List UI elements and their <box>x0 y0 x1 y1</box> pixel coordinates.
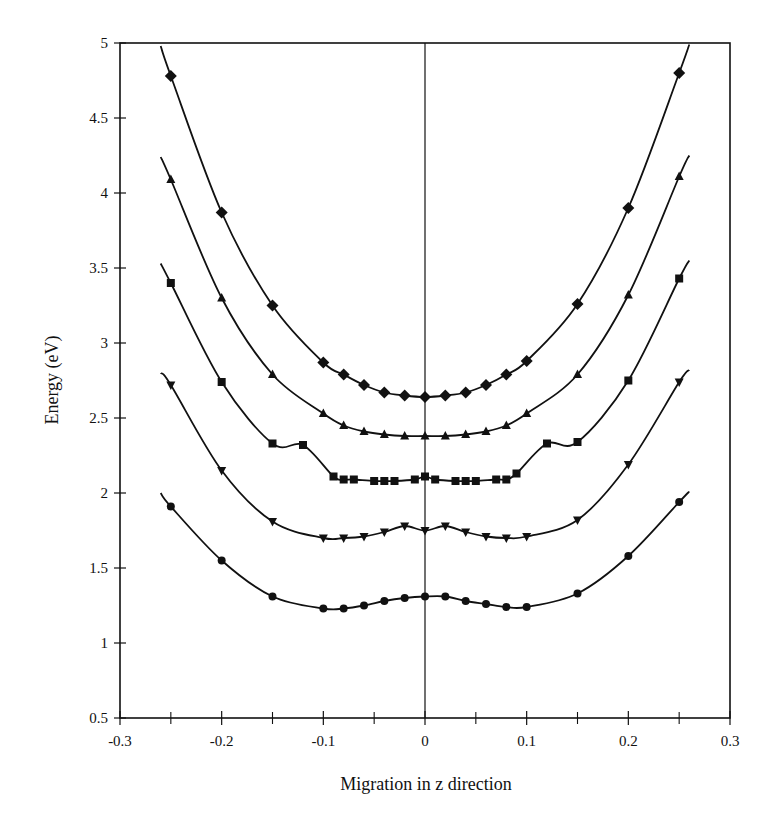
x-tick-label: -0.3 <box>108 733 132 749</box>
triangle-up-marker <box>522 409 531 418</box>
diamond-marker <box>460 387 472 399</box>
square-marker <box>218 378 226 386</box>
square-marker <box>431 476 439 484</box>
square-marker <box>492 476 500 484</box>
circle-marker <box>421 593 429 601</box>
diamond-marker <box>358 379 370 391</box>
y-tick-label: 4.5 <box>89 110 108 126</box>
square-marker <box>472 477 480 485</box>
square-marker <box>299 441 307 449</box>
diamond-marker <box>673 67 685 79</box>
square-marker <box>370 477 378 485</box>
diamond-marker <box>480 379 492 391</box>
square-marker <box>421 473 429 481</box>
circle-marker <box>462 597 470 605</box>
y-tick-label: 1 <box>101 635 109 651</box>
circle-marker <box>574 590 582 598</box>
x-tick-label: 0 <box>421 733 429 749</box>
y-tick-label: 1.5 <box>89 560 108 576</box>
square-marker <box>675 275 683 283</box>
triangle-up-marker <box>319 409 328 418</box>
circle-marker <box>502 603 510 611</box>
x-axis-ticks: -0.3-0.2-0.100.10.20.3 <box>108 711 739 749</box>
circle-marker <box>269 593 277 601</box>
square-marker <box>574 438 582 446</box>
square-marker <box>391 477 399 485</box>
square-marker <box>330 473 338 481</box>
circle-marker <box>482 600 490 608</box>
square-marker <box>502 476 510 484</box>
circle-marker <box>624 552 632 560</box>
square-marker <box>340 476 348 484</box>
energy-migration-chart: 0.511.522.533.544.55 -0.3-0.2-0.100.10.2… <box>0 0 774 839</box>
y-tick-label: 2 <box>101 485 109 501</box>
y-tick-label: 5 <box>101 35 109 51</box>
circle-marker <box>319 605 327 613</box>
diamond-marker <box>500 369 512 381</box>
diamond-marker <box>399 390 411 402</box>
x-tick-label: -0.2 <box>210 733 234 749</box>
diamond-marker <box>419 391 431 403</box>
square-marker <box>543 440 551 448</box>
y-tick-label: 0.5 <box>89 710 108 726</box>
square-marker <box>624 377 632 385</box>
square-marker <box>462 477 470 485</box>
square-marker <box>269 440 277 448</box>
diamond-marker <box>216 207 228 219</box>
x-tick-label: -0.1 <box>311 733 335 749</box>
circle-marker <box>380 597 388 605</box>
triangle-up-marker <box>675 172 684 181</box>
square-marker <box>411 476 419 484</box>
square-marker <box>380 477 388 485</box>
x-tick-label: 0.1 <box>517 733 536 749</box>
square-marker <box>513 470 521 478</box>
triangle-up-marker <box>624 290 633 299</box>
diamond-marker <box>338 369 350 381</box>
triangle-up-marker <box>166 175 175 184</box>
y-tick-label: 4 <box>101 185 109 201</box>
y-tick-label: 3.5 <box>89 260 108 276</box>
circle-marker <box>675 498 683 506</box>
square-marker <box>350 476 358 484</box>
square-marker <box>452 477 460 485</box>
diamond-marker <box>267 300 279 312</box>
diamond-marker <box>378 387 390 399</box>
triangle-up-marker <box>217 293 226 302</box>
diamond-marker <box>572 298 584 310</box>
circle-marker <box>340 605 348 613</box>
y-axis-title: Energy (eV) <box>42 335 63 424</box>
square-marker <box>167 279 175 287</box>
x-tick-label: 0.2 <box>619 733 638 749</box>
diamond-marker <box>439 390 451 402</box>
diamond-marker <box>165 70 177 82</box>
circle-marker <box>360 602 368 610</box>
x-tick-label: 0.3 <box>721 733 740 749</box>
triangle-down-marker <box>573 517 582 526</box>
circle-marker <box>441 593 449 601</box>
x-axis-title: Migration in z direction <box>340 774 511 794</box>
y-tick-label: 2.5 <box>89 410 108 426</box>
y-tick-label: 3 <box>101 335 109 351</box>
circle-marker <box>167 503 175 511</box>
triangle-down-marker <box>421 527 430 536</box>
circle-marker <box>523 603 531 611</box>
diamond-marker <box>622 202 634 214</box>
triangle-down-marker <box>268 518 277 527</box>
circle-marker <box>401 594 409 602</box>
circle-marker <box>218 557 226 565</box>
